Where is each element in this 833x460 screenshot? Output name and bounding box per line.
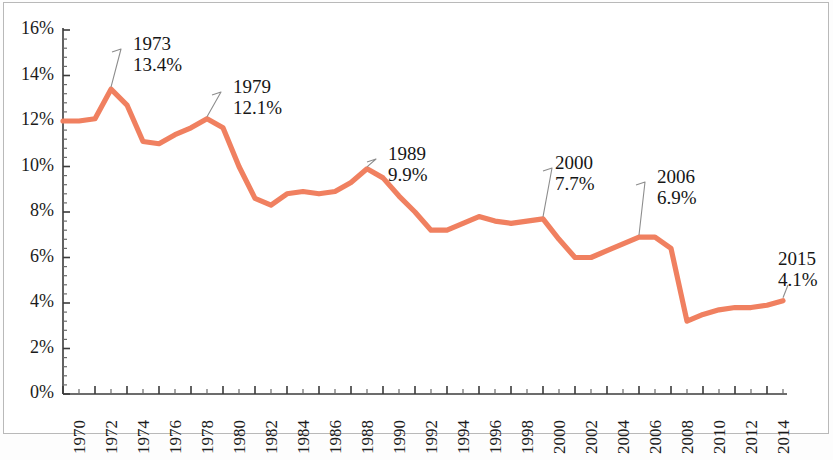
x-tick-label: 2008: [678, 420, 698, 454]
x-tick-label: 1978: [198, 420, 218, 454]
x-tick-label: 1970: [70, 420, 90, 454]
x-tick-label: 1986: [326, 420, 346, 454]
annotation-value: 7.7%: [555, 173, 595, 194]
annotation-value: 6.9%: [657, 187, 697, 208]
leader-line: [207, 92, 221, 117]
chart-page: 0%2%4%6%8%10%12%14%16% 19701972197419761…: [0, 0, 833, 460]
annotation-1989: 19899.9%: [388, 143, 428, 186]
x-tick-label: 1994: [454, 420, 474, 454]
annotation-year: 1979: [233, 76, 282, 97]
annotation-value: 4.1%: [778, 269, 818, 290]
annotation-year: 1989: [388, 143, 428, 164]
x-tick-label: 1974: [134, 420, 154, 454]
x-tick-label: 1976: [166, 420, 186, 454]
annotation-2000: 20007.7%: [555, 152, 595, 195]
x-tick-label: 2004: [614, 420, 634, 454]
y-tick-label: 14%: [0, 64, 54, 85]
x-tick-label: 2014: [774, 420, 794, 454]
x-tick-label: 2000: [550, 420, 570, 454]
x-tick-label: 2012: [742, 420, 762, 454]
y-tick-label: 0%: [0, 382, 54, 403]
axes: [63, 28, 787, 394]
annotation-1973: 197313.4%: [133, 33, 182, 76]
annotation-year: 2015: [778, 248, 818, 269]
x-tick-label: 1980: [230, 420, 250, 454]
x-tick-label: 1996: [486, 420, 506, 454]
leader-line: [367, 159, 376, 167]
x-tick-label: 2010: [710, 420, 730, 454]
annotation-1979: 197912.1%: [233, 76, 282, 119]
annotation-year: 2006: [657, 166, 697, 187]
y-tick-label: 12%: [0, 109, 54, 130]
annotation-value: 13.4%: [133, 54, 182, 75]
x-tick-label: 2006: [646, 420, 666, 454]
y-tick-label: 6%: [0, 246, 54, 267]
y-tick-label: 8%: [0, 200, 54, 221]
x-tick-label: 1972: [102, 420, 122, 454]
leader-line: [543, 168, 552, 217]
line-chart-plot: [0, 0, 833, 460]
annotation-2015: 20154.1%: [778, 248, 818, 291]
x-tick-label: 1984: [294, 420, 314, 454]
leader-line: [636, 182, 645, 235]
y-tick-label: 10%: [0, 155, 54, 176]
x-tick-label: 1998: [518, 420, 538, 454]
x-tick-label: 2002: [582, 420, 602, 454]
y-tick-label: 2%: [0, 337, 54, 358]
y-tick-label: 4%: [0, 291, 54, 312]
annotation-2006: 20066.9%: [657, 166, 697, 209]
annotation-value: 12.1%: [233, 97, 282, 118]
annotation-value: 9.9%: [388, 164, 428, 185]
x-tick-label: 1992: [422, 420, 442, 454]
leader-line: [111, 49, 121, 87]
x-tick-label: 1988: [358, 420, 378, 454]
x-tick-label: 1982: [262, 420, 282, 454]
annotation-year: 2000: [555, 152, 595, 173]
y-tick-label: 16%: [0, 18, 54, 39]
x-tick-label: 1990: [390, 420, 410, 454]
annotation-year: 1973: [133, 33, 182, 54]
